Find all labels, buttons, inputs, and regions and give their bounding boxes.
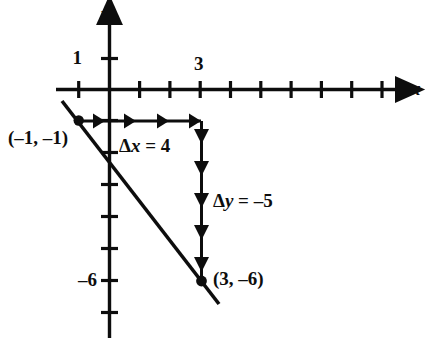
y-axis-label: y (101, 4, 109, 23)
delta-y-symbol: Δ (213, 190, 225, 211)
delta-x-value: = 4 (145, 135, 170, 156)
delta-x-variable: x (131, 135, 141, 156)
delta-y-arrow (194, 121, 209, 281)
point-start-label: (–1, –1) (8, 128, 68, 147)
delta-y-label: Δy = –5 (213, 191, 273, 210)
y-tick-label-1: 1 (73, 48, 83, 67)
delta-x-label: Δx = 4 (119, 136, 170, 155)
x-tick-label-3: 3 (194, 54, 204, 73)
delta-x-symbol: Δ (119, 135, 131, 156)
point-end-label: (3, –6) (213, 269, 264, 288)
delta-y-value: = –5 (238, 190, 273, 211)
slope-triangle-figure: y x 1 –6 3 (–1, –1) (3, –6) Δx = 4 Δy = … (0, 0, 432, 338)
point-start-marker (74, 115, 84, 125)
y-axis (101, 22, 118, 338)
point-end-marker (196, 276, 207, 287)
delta-x-arrow (79, 114, 201, 129)
x-axis-label: x (411, 79, 421, 98)
y-tick-label-minus6: –6 (78, 270, 97, 289)
delta-y-variable: y (225, 190, 233, 211)
x-axis (56, 81, 398, 98)
